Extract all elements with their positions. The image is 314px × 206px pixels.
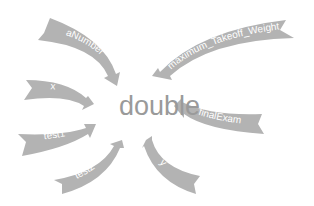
ribbon-arrow-shape [24, 80, 94, 110]
arrow-y: y [142, 136, 200, 194]
arrow-test2: test2 [54, 140, 124, 194]
arrow-label-x: x [50, 80, 56, 91]
ribbon-arrow-shape [38, 18, 120, 86]
arrow-maximum-takeoff-weight: maximum_Takeoff_Weight [152, 20, 294, 80]
arrow-anumber: aNumber [38, 18, 120, 86]
arrow-test1: test1 [18, 124, 96, 156]
diagram-canvas: aNumber maximum_Takeoff_Weight x finalEx… [0, 0, 314, 206]
diagram-svg: aNumber maximum_Takeoff_Weight x finalEx… [0, 0, 314, 206]
center-label: double [119, 91, 200, 121]
arrow-x: x [24, 80, 94, 110]
ribbon-arrow-shape [142, 136, 200, 194]
